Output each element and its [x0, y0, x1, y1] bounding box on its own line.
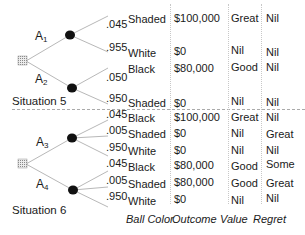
chance-node-a1 [65, 31, 75, 40]
value: Nil [231, 95, 244, 107]
outcome: $0 [174, 97, 186, 109]
decision-node-6 [18, 159, 27, 168]
value: Good [231, 61, 258, 73]
probability: .050 [106, 71, 127, 83]
probability: .005 [106, 174, 127, 186]
value: Nil [231, 194, 244, 206]
outcome: $0 [174, 45, 186, 57]
ball-color: White [128, 195, 156, 207]
column-divider [261, 4, 262, 204]
regret: Some [266, 158, 295, 170]
ball-color: White [128, 145, 156, 157]
header-outcome: Outcome [172, 213, 217, 225]
value: Nil [231, 44, 244, 56]
value: Nil [231, 127, 244, 139]
alternative-a2: A2 [35, 73, 47, 89]
alternative-a1: A1 [35, 30, 47, 46]
probability: .950 [106, 141, 127, 153]
ball-color: Black [128, 112, 155, 124]
probability: .950 [106, 190, 127, 202]
outcome: $100,000 [174, 12, 220, 24]
regret: Nil [266, 46, 279, 58]
situation-6-label: Situation 6 [12, 204, 66, 216]
outcome: $80,000 [174, 62, 214, 74]
ball-color: Shaded [128, 13, 166, 25]
ball-color: Black [128, 161, 155, 173]
chance-node-a3 [67, 134, 77, 143]
decision-node-5 [18, 56, 27, 65]
column-divider [170, 4, 171, 204]
value: Great [231, 111, 259, 123]
regret: Nil [266, 144, 279, 156]
header-ball-color: Ball Color [126, 213, 174, 225]
header-value: Value [220, 213, 248, 225]
regret: Nil [266, 96, 279, 108]
probability: .950 [106, 92, 127, 104]
probability: .955 [106, 41, 127, 53]
ball-color: Shaded [128, 178, 166, 190]
alternative-a3: A3 [36, 136, 48, 152]
regret: Great [266, 177, 294, 189]
value: Nil [231, 144, 244, 156]
probability: .045 [106, 108, 127, 120]
regret: Nil [266, 192, 279, 204]
regret: Nil [266, 61, 279, 73]
probability: .045 [106, 157, 127, 169]
outcome: $0 [174, 127, 186, 139]
value: Good [231, 177, 258, 189]
outcome: $0 [174, 193, 186, 205]
column-divider [228, 4, 229, 204]
regret: Great [266, 128, 294, 140]
regret: Nil [266, 111, 279, 123]
value: Good [231, 160, 258, 172]
chance-node-a4 [68, 186, 78, 195]
chance-node-a2 [67, 84, 77, 93]
header-regret: Regret [253, 213, 286, 225]
outcome: $80,000 [174, 176, 214, 188]
ball-color: Shaded [128, 128, 166, 140]
regret: Nil [266, 12, 279, 24]
outcome: $100,000 [174, 111, 220, 123]
ball-color: Shaded [128, 97, 166, 109]
ball-color: White [128, 47, 156, 59]
ball-color: Black [128, 63, 155, 75]
alternative-a4: A4 [36, 178, 48, 194]
probability: .005 [106, 124, 127, 136]
value: Great [231, 12, 259, 24]
outcome: $80,000 [174, 159, 214, 171]
outcome: $0 [174, 144, 186, 156]
probability: .045 [106, 18, 127, 30]
situation-5-label: Situation 5 [12, 95, 66, 107]
